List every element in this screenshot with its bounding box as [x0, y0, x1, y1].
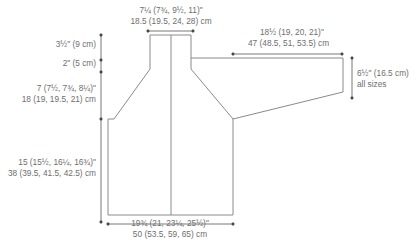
sleeve-width-imperial: 6½" (16.5 cm) [357, 68, 409, 79]
yoke-depth-metric: 18 (19, 19.5, 21) cm [22, 94, 96, 105]
body-length-label: 15 (15½, 16¼, 16¾)" 38 (39.5, 41.5, 42.5… [8, 157, 96, 179]
body-width-metric: 50 (53.5, 59, 65) cm [120, 229, 220, 240]
neck-width-metric: 18.5 (19.5, 24, 28) cm [130, 16, 212, 27]
body-left-outline [108, 35, 343, 215]
dimension-lines [100, 30, 353, 225]
sleeve-length-label: 18½ (19, 20, 21)" 47 (48.5, 51, 53.5) cm [248, 27, 329, 49]
sleeve-width-label: 6½" (16.5 cm) all sizes [357, 68, 409, 90]
garment-outline [108, 35, 343, 215]
neck-right-outline [191, 58, 233, 119]
body-width-label: 19¾ (21, 23¼, 25½)" 50 (53.5, 59, 65) cm [120, 218, 220, 240]
neck-depth-top-label: 3½" (9 cm) [56, 39, 96, 50]
schematic-drawing [0, 0, 419, 243]
yoke-depth-label: 7 (7½, 7¾, 8¼)" 18 (19, 19.5, 21) cm [22, 83, 96, 105]
sleeve-length-imperial: 18½ (19, 20, 21)" [248, 27, 329, 38]
neck-width-label: 7¼ (7¾, 9½, 11)" 18.5 (19.5, 24, 28) cm [130, 5, 212, 27]
body-length-imperial: 15 (15½, 16¼, 16¾)" [8, 157, 96, 168]
sleeve-length-metric: 47 (48.5, 51, 53.5) cm [248, 38, 329, 49]
yoke-depth-imperial: 7 (7½, 7¾, 8¼)" [22, 83, 96, 94]
sleeve-width-note: all sizes [357, 79, 409, 90]
body-length-metric: 38 (39.5, 41.5, 42.5) cm [8, 168, 96, 179]
neck-depth-bottom-label: 2" (5 cm) [63, 58, 96, 69]
neck-width-imperial: 7¼ (7¾, 9½, 11)" [130, 5, 212, 16]
body-width-imperial: 19¾ (21, 23¼, 25½)" [120, 218, 220, 229]
